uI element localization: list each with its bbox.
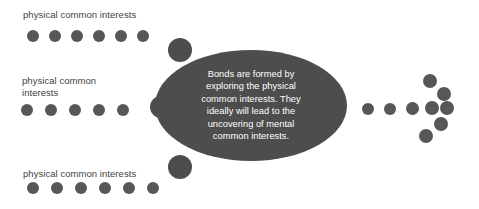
label-middle-left: physical common interests xyxy=(22,75,96,98)
central-ellipse-text: Bonds are formed by exploring the physic… xyxy=(169,68,333,142)
arrow-dot xyxy=(434,117,448,131)
arrow-dot xyxy=(425,101,439,115)
interest-dot xyxy=(45,104,57,116)
arrow-dot xyxy=(384,103,396,115)
arrow-dot xyxy=(423,74,437,88)
bump-bottom-circle xyxy=(168,155,192,179)
arrow-dot xyxy=(437,87,451,101)
interest-dot xyxy=(93,30,105,42)
interest-dot xyxy=(147,182,159,194)
interest-dot xyxy=(93,104,105,116)
interest-dot xyxy=(21,104,33,116)
interest-dot xyxy=(49,30,61,42)
interest-dot xyxy=(137,30,149,42)
interest-dot xyxy=(51,182,63,194)
diagram-canvas: physical common interests physical commo… xyxy=(0,0,479,209)
interest-dot xyxy=(117,104,129,116)
arrow-dot xyxy=(419,129,433,143)
interest-dot xyxy=(115,30,127,42)
bump-top-circle xyxy=(168,38,192,62)
interest-dot xyxy=(27,30,39,42)
interest-dot xyxy=(27,182,39,194)
interest-dot xyxy=(75,182,87,194)
label-bottom-left: physical common interests xyxy=(23,168,136,180)
arrow-dot xyxy=(440,101,454,115)
interest-dot xyxy=(123,182,135,194)
arrow-dot xyxy=(406,102,419,115)
interest-dot xyxy=(99,182,111,194)
interest-dot xyxy=(69,104,81,116)
interest-dot xyxy=(71,30,83,42)
arrow-dot xyxy=(362,103,374,115)
label-top-left: physical common interests xyxy=(23,9,136,21)
